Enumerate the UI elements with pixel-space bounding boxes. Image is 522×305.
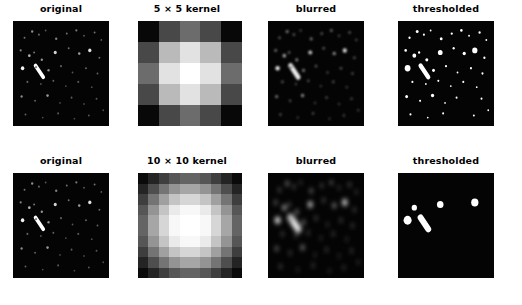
kernel-cell (190, 257, 200, 268)
source-point (97, 224, 99, 226)
kernel-cell (180, 268, 190, 279)
kernel-cell (138, 268, 148, 279)
source-point (83, 187, 85, 189)
source-point (309, 189, 313, 193)
source-point (411, 81, 413, 83)
kernel-cell (221, 184, 231, 195)
source-point (440, 37, 443, 40)
source-point (52, 232, 54, 234)
source-point (283, 54, 286, 58)
source-point (307, 231, 310, 235)
kernel-cell (138, 257, 148, 268)
source-point (77, 233, 79, 235)
source-point (353, 56, 355, 59)
source-point (41, 211, 43, 214)
source-point (310, 37, 313, 40)
image-kernel-10x10 (138, 173, 242, 278)
source-point (357, 261, 360, 264)
kernel-cell (138, 42, 159, 63)
source-point (348, 183, 351, 187)
kernel-cell (221, 63, 242, 84)
source-point (40, 83, 42, 85)
kernel-cell (138, 236, 148, 247)
kernel-cell (148, 226, 158, 237)
source-point (275, 66, 279, 71)
kernel-cell (200, 21, 221, 42)
kernel-cell (180, 194, 190, 205)
kernel-cell (211, 173, 221, 184)
source-point (409, 113, 411, 115)
source-point (462, 81, 464, 83)
kernel-cell (200, 173, 210, 184)
kernel-cell (200, 215, 210, 226)
source-point (274, 49, 277, 52)
source-point (35, 218, 37, 220)
kernel-cell (180, 205, 190, 216)
source-point (431, 94, 434, 98)
source-point (340, 67, 342, 70)
source-point (301, 94, 304, 97)
source-point (288, 51, 290, 54)
kernel-cell (200, 63, 221, 84)
kernel-cell (221, 105, 242, 126)
source-point (314, 253, 317, 256)
source-point (20, 247, 22, 250)
source-point (66, 33, 68, 35)
source-point (31, 182, 33, 185)
source-point (275, 246, 279, 250)
panel-kernel-5x5: 5 × 5 kernel (126, 0, 248, 152)
kernel-cell (180, 84, 201, 105)
source-point (38, 34, 40, 36)
source-point (71, 249, 73, 251)
kernel-cell (232, 268, 242, 279)
panel-title-thresholded-top: thresholded (385, 3, 507, 15)
source-point (343, 48, 347, 52)
source-point (25, 265, 27, 267)
source-point (351, 72, 353, 75)
kernel-cell (148, 215, 158, 226)
source-point (78, 52, 80, 55)
source-point (57, 264, 59, 266)
source-point (57, 112, 59, 114)
source-point (342, 199, 348, 205)
source-point (332, 232, 335, 236)
source-point (342, 266, 345, 270)
source-point (299, 181, 302, 184)
source-point (78, 204, 80, 207)
kernel-cell (221, 205, 231, 216)
image-thresholded-top (398, 21, 494, 126)
source-point (485, 39, 487, 41)
source-point (31, 30, 33, 33)
kernel-cell (180, 184, 190, 195)
kernel-cell (180, 42, 201, 63)
source-point (21, 218, 24, 222)
source-point (96, 250, 98, 252)
panel-thresholded-10x10: thresholded (385, 152, 507, 304)
kernel-cell (148, 257, 158, 268)
source-point (45, 30, 47, 32)
panel-title-original-bottom: original (0, 155, 122, 167)
kernel-cell (159, 268, 169, 279)
kernel-cell (138, 194, 148, 205)
source-point (330, 29, 333, 32)
kernel-grid-5x5 (138, 21, 242, 126)
source-point (41, 59, 43, 62)
source-point (83, 35, 85, 37)
kernel-cell (211, 247, 221, 258)
source-point (85, 219, 87, 221)
source-point (20, 95, 22, 98)
source-point (345, 237, 348, 240)
source-point (338, 254, 341, 257)
source-point (279, 113, 281, 116)
kernel-cell (169, 226, 179, 237)
source-point (96, 98, 98, 100)
source-point (412, 205, 417, 211)
kernel-cell (148, 173, 158, 184)
source-point (60, 65, 62, 67)
kernel-cell (148, 184, 158, 195)
source-point (33, 51, 35, 53)
source-point (100, 39, 102, 41)
kernel-cell (159, 226, 169, 237)
source-point (94, 32, 96, 34)
kernel-cell (148, 205, 158, 216)
